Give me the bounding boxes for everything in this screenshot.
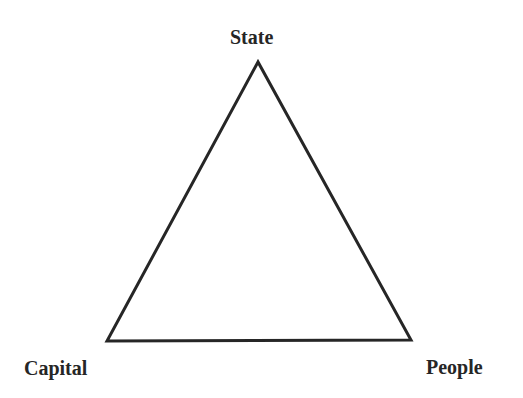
triangle-diagram [0,0,523,398]
node-label-state: State [230,27,273,47]
node-label-people: People [426,357,483,377]
node-label-capital: Capital [24,358,87,378]
triangle-shape [107,62,411,341]
